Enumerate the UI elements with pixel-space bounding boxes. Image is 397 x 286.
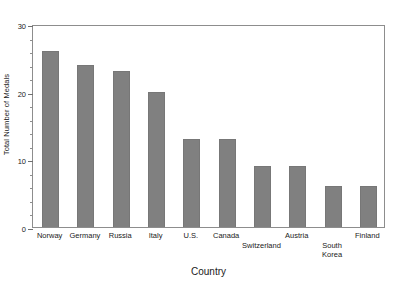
y-tick-minor-mark	[30, 202, 33, 203]
y-tick-minor-mark	[30, 53, 33, 54]
bar	[77, 65, 94, 227]
x-tick-label: Finland	[355, 231, 380, 240]
x-axis-tick-labels: NorwayGermanyRussiaItalyU.S.CanadaSwitze…	[32, 229, 385, 269]
bar	[113, 71, 130, 227]
bar	[360, 186, 377, 227]
bar	[219, 139, 236, 227]
y-tick-minor-mark	[30, 67, 33, 68]
bar	[42, 51, 59, 227]
x-tick-label: Canada	[213, 231, 239, 240]
y-tick-major-mark	[28, 161, 33, 162]
x-axis-title: Country	[32, 266, 385, 277]
y-tick-minor-mark	[30, 175, 33, 176]
y-tick-minor-mark	[30, 215, 33, 216]
bar	[183, 139, 200, 227]
y-axis-title-text: Total Number of Medals	[3, 73, 12, 154]
x-tick-label: U.S.	[184, 231, 199, 240]
y-tick-minor-mark	[30, 148, 33, 149]
x-tick-label: Switzerland	[242, 241, 281, 250]
y-tick-major-mark	[28, 94, 33, 95]
y-tick-minor-mark	[30, 121, 33, 122]
y-tick-label: 30	[18, 22, 26, 31]
y-tick-major-mark	[28, 26, 33, 27]
y-tick-label: 0	[22, 225, 26, 234]
bar	[289, 166, 306, 227]
x-tick-label: Russia	[109, 231, 132, 240]
x-tick-label: Germany	[70, 231, 101, 240]
bar-chart-figure: Total Number of Medals 0102030 NorwayGer…	[0, 0, 397, 286]
x-tick-label: Norway	[37, 231, 62, 240]
x-tick-label: SouthKorea	[322, 241, 342, 259]
y-tick-minor-mark	[30, 107, 33, 108]
plot-area: 0102030	[32, 25, 385, 228]
bar	[254, 166, 271, 227]
y-tick-minor-mark	[30, 40, 33, 41]
bar	[148, 92, 165, 227]
y-tick-minor-mark	[30, 134, 33, 135]
y-tick-label: 20	[18, 89, 26, 98]
bar	[325, 186, 342, 227]
y-tick-minor-mark	[30, 80, 33, 81]
y-axis-title: Total Number of Medals	[0, 0, 14, 228]
y-tick-label: 10	[18, 157, 26, 166]
x-tick-label: Austria	[285, 231, 308, 240]
x-tick-label: Italy	[149, 231, 163, 240]
y-tick-minor-mark	[30, 188, 33, 189]
